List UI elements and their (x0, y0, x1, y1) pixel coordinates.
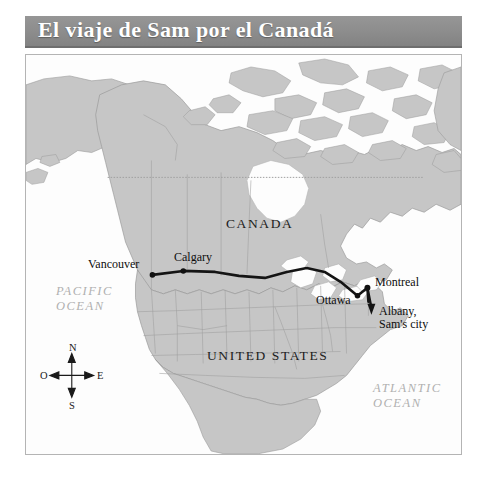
page-title: El viaje de Sam por el Canadá (38, 17, 334, 43)
city-dot-montreal (364, 285, 370, 291)
city-dot-vancouver (150, 272, 156, 278)
map-graphic (26, 55, 461, 454)
title-banner: El viaje de Sam por el Canadá (25, 16, 462, 48)
map-container: CANADA UNITED STATES PACIFIC OCEAN ATLAN… (25, 54, 462, 455)
city-dot-calgary (180, 268, 186, 274)
city-dot-ottawa (355, 293, 361, 299)
